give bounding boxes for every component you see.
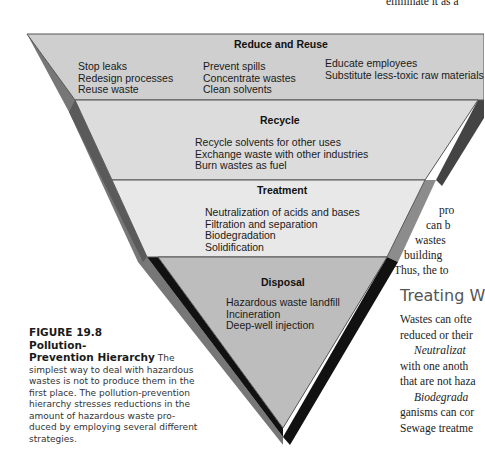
level-title-recycle: Recycle: [260, 114, 300, 126]
figure-caption-label-line-2: Prevention Hierarchy: [29, 351, 155, 363]
caption-line: duced by employing several different: [29, 422, 147, 434]
caption-line: wastes is not to produce them in the: [29, 376, 147, 388]
level-reduce-reuse-column-1: Stop leaks Redesign processes Reuse wast…: [78, 61, 173, 96]
list-item: Educate employees: [325, 58, 484, 70]
body-paragraph: Wastes can ofte reduced or their Neutral…: [400, 312, 476, 436]
body-text-fragment: pro: [439, 203, 454, 219]
caption-line: hierarchy stresses reductions in the: [29, 399, 147, 411]
list-item: Solidification: [205, 242, 360, 254]
caption-line: simplest way to deal with hazardous: [29, 365, 147, 377]
level-title-treatment: Treatment: [257, 184, 307, 196]
body-line: Wastes can ofte: [400, 312, 476, 328]
figure-caption-label-line-2-wrap: Prevention Hierarchy The: [29, 351, 147, 365]
list-item: Neutralization of acids and bases: [205, 207, 360, 219]
body-line: with one anoth: [400, 359, 476, 375]
body-line-italic: Neutralizat: [400, 343, 476, 359]
body-text-fragment: building: [404, 248, 442, 264]
level-recycle-items: Recycle solvents for other uses Exchange…: [195, 137, 368, 172]
level-reduce-reuse-column-2: Prevent spills Concentrate wastes Clean …: [203, 61, 296, 96]
list-item: Clean solvents: [203, 84, 296, 96]
section-heading-treating-wastes: Treating W: [400, 286, 485, 305]
body-text-fragment: can b: [426, 218, 451, 234]
body-line: ganisms can cor: [400, 405, 476, 421]
figure-caption-text-start: The: [158, 353, 175, 363]
list-item: Recycle solvents for other uses: [195, 137, 368, 149]
figure-caption-label-line-1: FIGURE 19.8 Pollution-: [29, 326, 147, 351]
list-item: Deep-well injection: [226, 320, 340, 332]
list-item: Prevent spills: [203, 61, 296, 73]
caption-line: first place. The pollution-prevention: [29, 388, 147, 400]
figure-caption: FIGURE 19.8 Pollution- Prevention Hierar…: [29, 326, 147, 445]
level-treatment-items: Neutralization of acids and bases Filtra…: [205, 207, 360, 253]
body-line: that are not haza: [400, 374, 476, 390]
caption-line: strategies.: [29, 434, 147, 446]
level-title-reduce-reuse: Reduce and Reuse: [234, 38, 328, 50]
list-item: Burn wastes as fuel: [195, 160, 368, 172]
list-item: Stop leaks: [78, 61, 173, 73]
level-reduce-reuse-column-3: Educate employees Substitute less-toxic …: [325, 58, 484, 81]
body-line: Sewage treatme: [400, 421, 476, 437]
level-disposal-items: Hazardous waste landfill Incineration De…: [226, 297, 340, 332]
body-text-fragment: Thus, the to: [394, 263, 449, 279]
body-text-fragment: wastes: [415, 233, 446, 249]
list-item: Substitute less-toxic raw materials: [325, 70, 484, 82]
list-item: Hazardous waste landfill: [226, 297, 340, 309]
body-line-italic: Biodegrada: [400, 390, 476, 406]
list-item: Biodegradation: [205, 230, 360, 242]
list-item: Reuse waste: [78, 84, 173, 96]
caption-line: amount of hazardous waste pro-: [29, 411, 147, 423]
body-line: reduced or their: [400, 328, 476, 344]
level-title-disposal: Disposal: [261, 276, 305, 288]
